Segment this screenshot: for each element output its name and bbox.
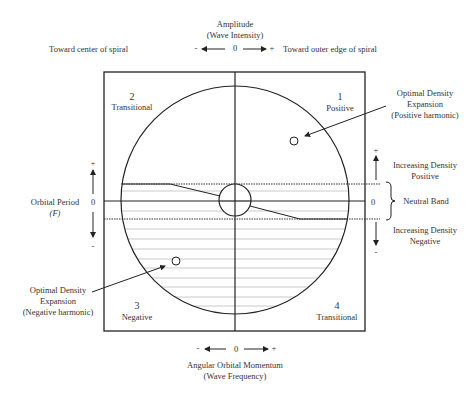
neutral-band-label: Neutral Band [396,196,456,207]
transition-line-right [250,206,348,219]
top-axis-title: Amplitude [200,19,270,30]
transition-line-left [122,184,220,196]
quadrant-1-label: Positive [315,103,365,114]
bottom-axis-zero: 0 [231,344,241,355]
top-axis-left-label: Toward center of spiral [8,44,128,55]
quadrant-3-number: 3 [122,300,152,311]
left-axis-plus: + [89,158,97,169]
increasing-positive-line2: Positive [380,171,470,182]
quadrant-2-label: Transitional [107,102,157,113]
positive-harmonic-point [290,137,298,145]
quadrant-3-label: Negative [112,312,162,323]
bottom-axis-subtitle: (Wave Frequency) [190,371,280,382]
quadrant-4-label: Transitional [309,312,365,323]
bottom-axis-plus: + [270,343,278,354]
left-axis-symbol: (F) [40,208,70,219]
left-axis-title: Orbital Period [25,197,85,208]
quadrant-1-number: 1 [325,91,355,102]
quadrant-2-number: 2 [117,91,147,102]
top-axis-minus: - [192,43,200,54]
left-axis-minus: - [89,241,97,252]
top-axis-plus: + [268,43,276,54]
top-axis-zero: 0 [230,43,240,54]
bottom-axis-title: Angular Orbital Momentum [180,360,290,371]
increasing-negative-line2: Negative [380,236,470,247]
top-axis-right-label: Toward outer edge of spiral [283,44,423,55]
right-scale-minus: - [372,247,380,258]
bottom-axis-minus: - [194,343,202,354]
quadrant-4-number: 4 [322,300,352,311]
left-axis-zero: 0 [89,197,97,208]
negative-harmonic-point [172,257,180,265]
negative-annotation-arrow [92,266,165,292]
right-scale-zero: 0 [368,197,378,208]
top-axis-subtitle: (Wave Intensity) [190,30,280,41]
increasing-positive-line1: Increasing Density [380,160,470,171]
neutral-band-brace [386,182,395,220]
right-scale-plus: + [372,145,380,156]
increasing-negative-line1: Increasing Density [380,225,470,236]
